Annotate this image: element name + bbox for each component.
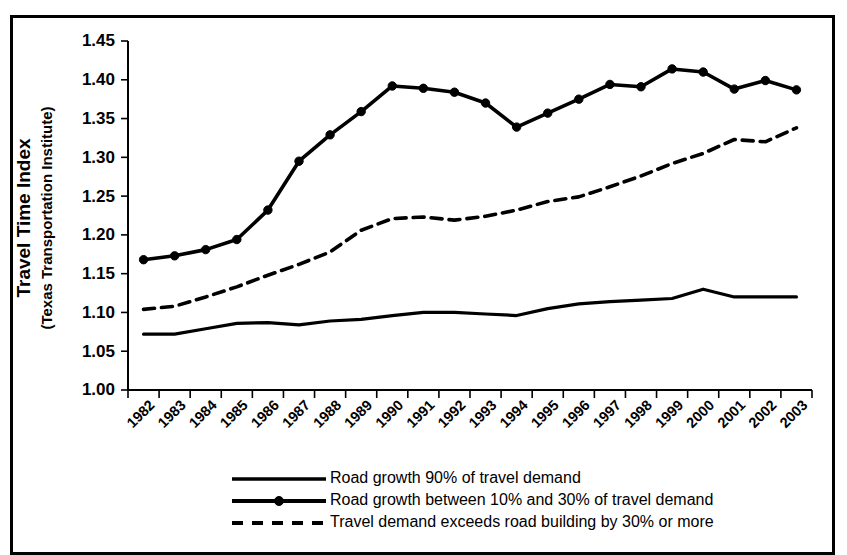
x-axis-tick-label: 1996 bbox=[559, 397, 593, 431]
x-axis-tick-label: 1992 bbox=[434, 397, 468, 431]
x-axis-tick-label: 1999 bbox=[652, 397, 686, 431]
x-axis-tick-label: 2001 bbox=[714, 397, 748, 431]
series-marker-point bbox=[419, 84, 427, 92]
series-marker-point bbox=[699, 68, 707, 76]
x-axis-tick-label: 2000 bbox=[683, 397, 717, 431]
x-axis-tick-label: 1990 bbox=[372, 397, 406, 431]
series-marker-point bbox=[637, 83, 645, 91]
x-axis-tick-label: 1988 bbox=[310, 397, 344, 431]
x-axis-tick-label: 1984 bbox=[186, 397, 220, 431]
x-axis-tick-label: 1982 bbox=[124, 397, 158, 431]
series-marker-point bbox=[326, 131, 334, 139]
x-axis-tick-label: 1995 bbox=[528, 397, 562, 431]
y-axis-title: Travel Time Index (Texas Transportation … bbox=[13, 106, 55, 329]
series-marker-point bbox=[233, 235, 241, 243]
series-marker-point bbox=[606, 80, 614, 88]
x-axis-tick-label: 2003 bbox=[776, 397, 810, 431]
y-axis-title-main: Travel Time Index bbox=[13, 138, 34, 298]
y-axis-tick-label: 1.00 bbox=[82, 380, 115, 399]
legend-item-label: Road growth between 10% and 30% of trave… bbox=[330, 491, 713, 508]
y-axis-tick-label: 1.10 bbox=[82, 303, 115, 322]
x-axis-tick-label: 1983 bbox=[155, 397, 189, 431]
series-marker-point bbox=[388, 82, 396, 90]
chart-legend: Road growth 90% of travel demandRoad gro… bbox=[232, 469, 714, 530]
series-line-3 bbox=[144, 128, 797, 309]
series-marker-point bbox=[512, 123, 520, 131]
series-marker-point bbox=[357, 107, 365, 115]
y-axis-tick-label: 1.25 bbox=[82, 187, 115, 206]
legend-item: Road growth 90% of travel demand bbox=[232, 469, 581, 486]
series-marker-point bbox=[668, 65, 676, 73]
x-axis-tick-label: 2002 bbox=[745, 397, 779, 431]
x-axis-tick-label: 1991 bbox=[403, 397, 437, 431]
series-marker-point bbox=[481, 99, 489, 107]
series-marker-point bbox=[202, 245, 210, 253]
series-line-2 bbox=[144, 69, 797, 260]
series-marker-point bbox=[544, 109, 552, 117]
series-layer bbox=[139, 65, 800, 334]
y-axis-tick-label: 1.40 bbox=[82, 70, 115, 89]
legend-item-label: Road growth 90% of travel demand bbox=[330, 469, 581, 486]
legend-swatch-marker bbox=[275, 497, 284, 506]
x-axis-tick-label: 1985 bbox=[217, 397, 251, 431]
x-axis: 1982198319841985198619871988198919901991… bbox=[124, 390, 812, 431]
y-axis: 1.001.051.101.151.201.251.301.351.401.45 bbox=[82, 31, 128, 399]
x-axis-tick-label: 1989 bbox=[341, 397, 375, 431]
x-axis-tick-label: 1993 bbox=[466, 397, 500, 431]
y-axis-tick-label: 1.45 bbox=[82, 31, 115, 50]
x-axis-tick-label: 1994 bbox=[497, 397, 531, 431]
y-axis-title-sub: (Texas Transportation Institute) bbox=[38, 106, 55, 329]
x-axis-tick-label: 1998 bbox=[621, 397, 655, 431]
x-axis-tick-label: 1987 bbox=[279, 397, 313, 431]
y-axis-tick-label: 1.05 bbox=[82, 342, 115, 361]
legend-item: Road growth between 10% and 30% of trave… bbox=[232, 491, 713, 508]
series-marker-point bbox=[139, 256, 147, 264]
series-marker-point bbox=[575, 95, 583, 103]
series-marker-point bbox=[792, 86, 800, 94]
x-axis-tick-label: 1997 bbox=[590, 397, 624, 431]
series-marker-point bbox=[170, 252, 178, 260]
y-axis-tick-label: 1.35 bbox=[82, 109, 115, 128]
series-marker-point bbox=[450, 88, 458, 96]
y-axis-tick-label: 1.15 bbox=[82, 264, 115, 283]
series-line-1 bbox=[144, 289, 797, 334]
legend-item-label: Travel demand exceeds road building by 3… bbox=[330, 513, 714, 530]
series-marker-point bbox=[730, 85, 738, 93]
y-axis-tick-label: 1.20 bbox=[82, 225, 115, 244]
series-marker-point bbox=[264, 206, 272, 214]
series-marker-point bbox=[761, 76, 769, 84]
y-axis-tick-label: 1.30 bbox=[82, 148, 115, 167]
x-axis-tick-label: 1986 bbox=[248, 397, 282, 431]
series-marker-point bbox=[295, 157, 303, 165]
legend-item: Travel demand exceeds road building by 3… bbox=[232, 513, 714, 530]
